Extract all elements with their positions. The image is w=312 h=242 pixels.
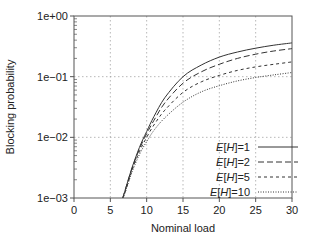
legend: E[H]=1E[H]=2E[H]=5E[H]=10 [210, 141, 298, 198]
series-line-1 [123, 43, 292, 198]
x-tick-label: 30 [286, 204, 298, 216]
data-series [123, 43, 292, 198]
y-tick-label: 1e+00 [37, 10, 68, 22]
legend-label: E[H]=5 [216, 171, 250, 183]
grid-lines [74, 16, 292, 198]
y-tick-label: 1e−01 [37, 71, 68, 83]
x-tick-label: 0 [71, 204, 77, 216]
x-tick-label: 15 [177, 204, 189, 216]
x-tick-label: 5 [107, 204, 113, 216]
y-axis-title: Blocking probability [4, 59, 16, 154]
series-line-2 [123, 49, 292, 198]
blocking-probability-chart: 051015202530 1e+001e−011e−021e−03 Nomina… [0, 0, 312, 242]
legend-label: E[H]=2 [216, 156, 250, 168]
x-tick-label: 20 [213, 204, 225, 216]
x-tick-label: 25 [250, 204, 262, 216]
y-tick-label: 1e−03 [37, 192, 68, 204]
x-tick-label: 10 [141, 204, 153, 216]
y-tick-label: 1e−02 [37, 131, 68, 143]
legend-label: E[H]=1 [216, 141, 250, 153]
x-axis-title: Nominal load [151, 222, 215, 234]
y-axis: 1e+001e−011e−021e−03 [37, 10, 74, 204]
x-axis: 051015202530 [71, 198, 298, 216]
plot-frame [74, 16, 292, 198]
legend-label: E[H]=10 [210, 186, 250, 198]
